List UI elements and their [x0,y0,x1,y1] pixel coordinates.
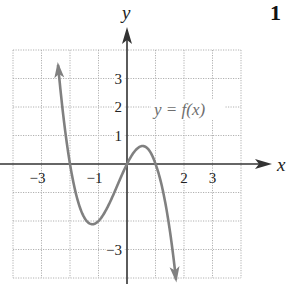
y-tick-label: 3 [115,71,123,87]
x-tick-label: 3 [209,170,217,186]
y-axis-label: y [120,2,131,23]
y-tick-label: −3 [106,242,122,258]
x-tick-label: −1 [87,170,103,186]
x-axis-label: x [276,154,286,175]
x-tick-label: 2 [180,170,188,186]
y-tick-label: 2 [115,99,123,115]
function-graph: −3−123321−3 y = f(x) x y [0,0,288,291]
curve-label: y = f(x) [152,100,205,119]
x-tick-label: −3 [30,170,46,186]
axes [0,27,272,284]
y-tick-label: 1 [115,128,123,144]
